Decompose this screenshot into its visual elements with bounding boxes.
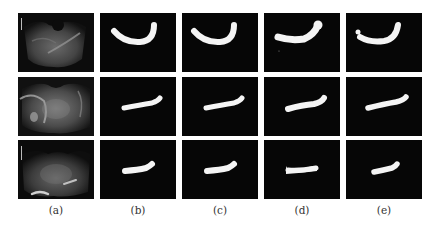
- caption-a: (a): [18, 204, 94, 216]
- mask-e-row3: [346, 140, 422, 199]
- mask-b-row1: [100, 13, 176, 72]
- figure-grid: (a) (b) (c) (d) (e): [0, 0, 438, 231]
- ultrasound-image-row2: [18, 77, 94, 136]
- mask-c-row3: [182, 140, 258, 199]
- mask-d-row2: [264, 77, 340, 136]
- caption-b: (b): [100, 204, 176, 216]
- caption-c: (c): [182, 204, 258, 216]
- mask-b-row2: [100, 77, 176, 136]
- ultrasound-image-row1: [18, 13, 94, 72]
- mask-e-row1: [346, 13, 422, 72]
- ultrasound-image-row3: [18, 140, 94, 199]
- mask-d-row3: [264, 140, 340, 199]
- caption-d: (d): [264, 204, 340, 216]
- caption-e: (e): [346, 204, 422, 216]
- mask-d-row1: [264, 13, 340, 72]
- mask-e-row2: [346, 77, 422, 136]
- mask-c-row2: [182, 77, 258, 136]
- mask-c-row1: [182, 13, 258, 72]
- mask-b-row3: [100, 140, 176, 199]
